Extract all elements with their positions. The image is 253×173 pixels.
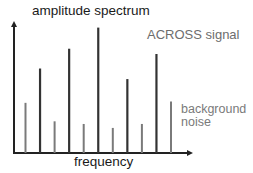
- chart-title: amplitude spectrum: [32, 4, 150, 19]
- y-axis-arrow-icon: [11, 21, 17, 27]
- spectrum-diagram: [0, 0, 253, 173]
- x-axis-label: frequency: [74, 155, 133, 170]
- stems: [26, 28, 172, 153]
- signal-annotation: ACROSS signal: [147, 28, 239, 42]
- x-axis-arrow-icon: [187, 150, 193, 156]
- noise-annotation: background noise: [181, 103, 246, 129]
- noise-annotation-line2: noise: [181, 116, 246, 129]
